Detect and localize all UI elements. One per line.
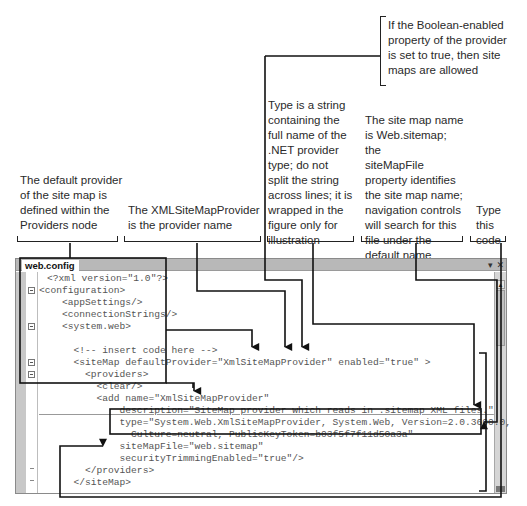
bracket-provider-name (124, 236, 261, 242)
dropdown-icon[interactable]: ▾ (488, 260, 493, 270)
collapse-icon[interactable] (28, 287, 35, 294)
bracket-enabled-callout (380, 16, 386, 86)
bracket-type-string (267, 236, 354, 242)
code-line: </providers> (39, 465, 154, 477)
bracket-default-provider (17, 236, 118, 242)
editor-titlebar: web.config ▾✕ (16, 259, 506, 271)
code-editor[interactable]: <?xml version="1.0"?> <configuration> <a… (39, 273, 493, 491)
code-line: <providers> (39, 369, 148, 381)
code-line: Culture=neutral, PublicKeyToken=b03f5f7f… (39, 429, 413, 441)
fold-end-marker (30, 480, 34, 481)
close-icon[interactable]: ✕ (496, 260, 504, 270)
code-line: <add name="XmlSiteMapProvider" (39, 393, 269, 405)
code-line: </siteMap> (39, 477, 131, 489)
code-line: type="System.Web.XmlSiteMapProvider, Sys… (39, 417, 511, 429)
callout-enabled-property: If the Boolean-enabled property of the p… (388, 18, 527, 78)
callout-type-string: Type is a string containing the full nam… (268, 98, 358, 248)
code-line: <configuration> (39, 285, 125, 297)
callout-default-provider: The default provider of the site map is … (20, 173, 130, 233)
code-line: siteMapFile="web.sitemap" (39, 441, 264, 453)
code-line: <connectionStrings/> (39, 309, 177, 321)
fold-end-marker (30, 468, 34, 469)
code-line: <appSettings/> (39, 297, 143, 309)
editor-window: web.config ▾✕ ▲ <?xml version="1.0"?> <c… (15, 258, 507, 494)
code-line: securityTrimmingEnabled="true"/> (39, 453, 304, 465)
code-line: <system.web> (39, 321, 131, 333)
code-line: <!-- insert code here --> (39, 345, 217, 357)
bracket-sitemap-file (361, 236, 463, 242)
tab-web-config[interactable]: web.config (22, 260, 79, 271)
code-line: <clear/> (39, 381, 143, 393)
resize-grip[interactable] (496, 486, 505, 492)
collapse-icon[interactable] (28, 323, 35, 330)
vertical-scrollbar[interactable]: ▲ (494, 272, 506, 493)
collapse-icon[interactable] (28, 359, 35, 366)
code-line: <siteMap defaultProvider="XmlSiteMapProv… (39, 357, 431, 369)
collapse-icon[interactable] (28, 371, 35, 378)
bracket-type-code (470, 236, 506, 242)
outline-gutter (26, 272, 38, 493)
titlebar-controls: ▾✕ (484, 259, 504, 271)
code-line: <?xml version="1.0"?> (47, 273, 168, 285)
editor-margin (16, 272, 26, 493)
callout-provider-name: The XMLSiteMapProvider is the provider n… (128, 203, 263, 233)
code-line: description="SiteMap provider which read… (39, 405, 494, 417)
scroll-up-icon[interactable]: ▲ (496, 280, 505, 289)
scroll-thumb[interactable] (496, 290, 505, 346)
